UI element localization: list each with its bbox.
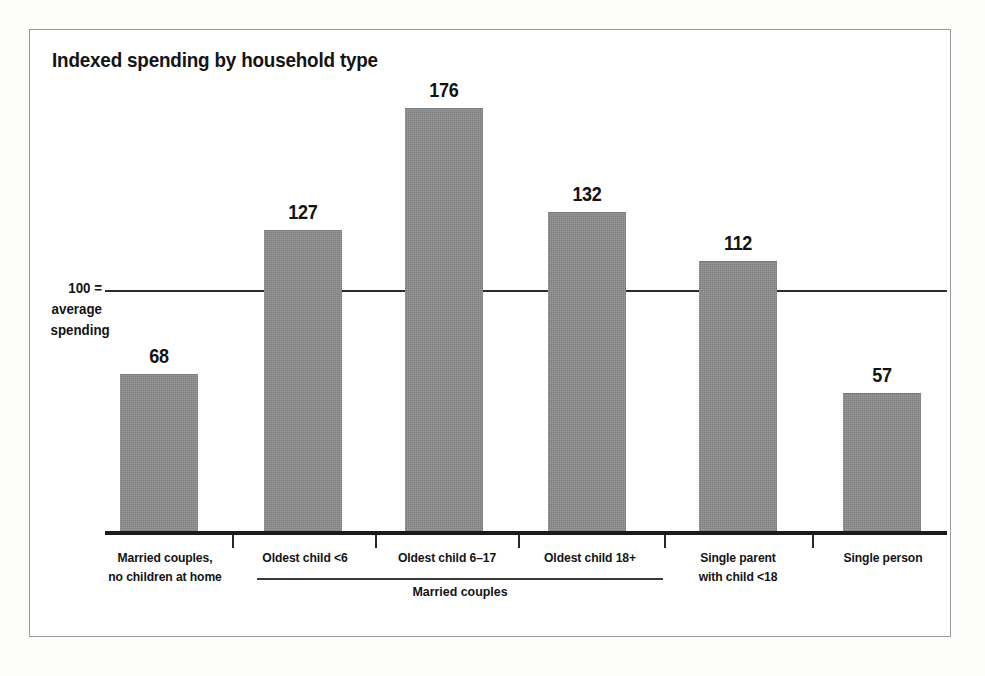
category-label-single-parent-child-under-18: Single parent with child <18 — [678, 548, 798, 586]
bar-single-person — [843, 393, 921, 532]
bar-married-no-children — [120, 374, 198, 532]
bar-value-oldest-child-under-6: 127 — [268, 201, 338, 224]
bar-oldest-child-6-17 — [405, 108, 483, 532]
chart-figure: Indexed spending by household type 100 =… — [0, 0, 985, 676]
x-axis-tick-1 — [232, 535, 234, 548]
group-bracket-line-married-couples — [257, 578, 663, 580]
bar-value-married-no-children: 68 — [124, 345, 194, 368]
reference-note-line-3: spending — [50, 320, 102, 341]
category-label-oldest-child-6-17: Oldest child 6–17 — [384, 548, 509, 567]
category-label-married-no-children: Married couples, no children at home — [105, 548, 225, 586]
reference-note-line-1: 100 = — [50, 278, 102, 299]
reference-note-line-2: average — [50, 299, 102, 320]
x-axis-tick-3 — [518, 535, 520, 548]
category-label-line: with child <18 — [699, 569, 778, 584]
category-label-line: Oldest child 6–17 — [398, 550, 496, 565]
x-axis-tick-5 — [812, 535, 814, 548]
bar-value-oldest-child-18-plus: 132 — [552, 183, 622, 206]
plot-area: 100 = average spending 68 127 176 132 11… — [0, 0, 985, 676]
x-axis-tick-2 — [375, 535, 377, 548]
x-axis-tick-4 — [664, 535, 666, 548]
bar-single-parent-child-under-18 — [699, 261, 777, 532]
bar-oldest-child-18-plus — [548, 212, 626, 532]
group-bracket-label-married-couples: Married couples — [273, 584, 647, 599]
reference-line-100 — [105, 290, 947, 292]
category-label-line: Single parent — [700, 550, 776, 565]
category-label-line: Single person — [843, 550, 922, 565]
category-label-line: Oldest child 18+ — [544, 550, 636, 565]
bar-oldest-child-under-6 — [264, 230, 342, 532]
category-label-single-person: Single person — [825, 548, 941, 567]
category-label-oldest-child-under-6: Oldest child <6 — [245, 548, 365, 567]
bar-value-single-person: 57 — [847, 364, 917, 387]
category-label-line: Oldest child <6 — [262, 550, 347, 565]
bar-value-oldest-child-6-17: 176 — [409, 79, 479, 102]
category-label-line: no children at home — [108, 569, 222, 584]
reference-line-annotation: 100 = average spending — [50, 278, 102, 341]
category-label-oldest-child-18-plus: Oldest child 18+ — [529, 548, 650, 567]
category-label-line: Married couples, — [118, 550, 213, 565]
bar-value-single-parent-child-under-18: 112 — [703, 232, 773, 255]
